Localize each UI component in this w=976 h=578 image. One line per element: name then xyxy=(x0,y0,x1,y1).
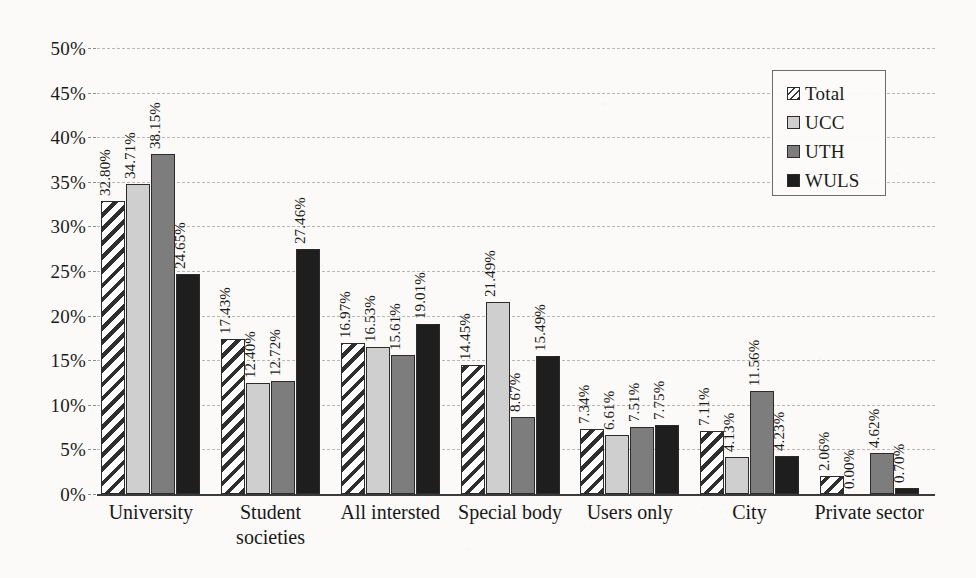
legend-label: Total xyxy=(805,83,845,105)
y-axis-tick-label: 25% xyxy=(16,262,86,281)
bar-group: 14.45%21.49%8.67%15.49% xyxy=(461,48,560,494)
bar-wuls[interactable] xyxy=(775,456,799,494)
bar-value-label: 7.51% xyxy=(627,383,642,422)
bar-group: 16.97%16.53%15.61%19.01% xyxy=(341,48,440,494)
bar-value-label: 38.15% xyxy=(148,102,163,149)
y-axis-labels: 0%5%10%15%20%25%30%35%40%45%50% xyxy=(8,48,86,494)
bar-value-label: 14.45% xyxy=(458,313,473,360)
bar-value-label: 16.97% xyxy=(338,291,353,338)
legend-swatch-icon xyxy=(787,87,800,100)
bar-uth[interactable] xyxy=(511,417,535,494)
category-label: City xyxy=(690,500,810,525)
bar-total[interactable] xyxy=(101,201,125,494)
bar-value-label: 27.46% xyxy=(293,197,308,244)
bar-value-label: 19.01% xyxy=(413,273,428,320)
legend-label: UTH xyxy=(805,141,845,163)
bar-wuls[interactable] xyxy=(536,356,560,494)
y-axis-tick-label: 10% xyxy=(16,395,86,414)
category-label: Special body xyxy=(450,500,570,525)
y-axis-tickmarks xyxy=(88,48,97,494)
bar-wuls[interactable] xyxy=(895,488,919,494)
y-axis-tickmark xyxy=(88,494,96,495)
bar-value-label: 4.13% xyxy=(722,413,737,452)
bar-ucc[interactable] xyxy=(605,435,629,494)
bar-value-label: 0.70% xyxy=(892,444,907,483)
bar-value-label: 12.40% xyxy=(243,332,258,379)
bar-value-label: 32.80% xyxy=(98,150,113,197)
legend-item-ucc[interactable]: UCC xyxy=(787,108,885,137)
bar-value-label: 17.43% xyxy=(218,287,233,334)
category-label: Private sector xyxy=(809,500,929,525)
y-axis-tickmark xyxy=(88,226,96,227)
legend-label: WULS xyxy=(805,170,860,192)
y-axis-tickmark xyxy=(88,360,96,361)
y-axis-tick-label: 20% xyxy=(16,306,86,325)
bar-ucc[interactable] xyxy=(126,184,150,494)
bar-group: 32.80%34.71%38.15%24.65% xyxy=(101,48,200,494)
legend-item-total[interactable]: Total xyxy=(787,79,885,108)
bar-value-label: 7.34% xyxy=(577,384,592,423)
category-label-line: All intersted xyxy=(330,500,450,525)
bar-value-label: 2.06% xyxy=(817,431,832,470)
category-label-line: Special body xyxy=(450,500,570,525)
y-axis-tick-label: 0% xyxy=(16,485,86,504)
bar-value-label: 34.71% xyxy=(123,133,138,180)
bar-value-label: 24.65% xyxy=(173,222,188,269)
bar-value-label: 4.62% xyxy=(867,409,882,448)
bar-ucc[interactable] xyxy=(366,347,390,494)
bar-ucc[interactable] xyxy=(725,457,749,494)
chart-page: 0%5%10%15%20%25%30%35%40%45%50% 32.80%34… xyxy=(0,0,976,578)
legend-swatch-icon xyxy=(787,145,800,158)
y-axis-tickmark xyxy=(88,48,96,49)
y-axis-tick-label: 45% xyxy=(16,83,86,102)
legend-swatch-icon xyxy=(787,174,800,187)
bar-ucc[interactable] xyxy=(486,302,510,494)
bar-value-label: 15.61% xyxy=(388,303,403,350)
category-label: Users only xyxy=(570,500,690,525)
category-label-line: Private sector xyxy=(809,500,929,525)
bar-value-label: 6.61% xyxy=(602,391,617,430)
bar-wuls[interactable] xyxy=(176,274,200,494)
bar-value-label: 11.56% xyxy=(747,340,762,386)
x-axis-baseline xyxy=(97,494,935,496)
y-axis-tick-label: 30% xyxy=(16,217,86,236)
y-axis-tick-label: 50% xyxy=(16,39,86,58)
category-label-line: societies xyxy=(211,525,331,550)
bar-group: 7.34%6.61%7.51%7.75% xyxy=(580,48,679,494)
bar-total[interactable] xyxy=(341,343,365,494)
chart-legend: TotalUCCUTHWULS xyxy=(772,70,886,196)
category-label: All intersted xyxy=(330,500,450,525)
bar-value-label: 15.49% xyxy=(533,304,548,351)
y-axis-tickmark xyxy=(88,271,96,272)
bar-value-label: 7.75% xyxy=(652,381,667,420)
y-axis-tickmark xyxy=(88,316,96,317)
bar-uth[interactable] xyxy=(630,427,654,494)
bar-value-label: 7.11% xyxy=(697,387,712,426)
y-axis-tickmark xyxy=(88,405,96,406)
legend-label: UCC xyxy=(805,112,845,134)
bar-ucc[interactable] xyxy=(246,383,270,494)
bar-value-label: 4.23% xyxy=(772,412,787,451)
category-label: University xyxy=(91,500,211,525)
bar-wuls[interactable] xyxy=(655,425,679,494)
bar-total[interactable] xyxy=(461,365,485,494)
y-axis-tick-label: 40% xyxy=(16,128,86,147)
bar-value-label: 0.00% xyxy=(842,450,857,489)
bar-uth[interactable] xyxy=(151,154,175,494)
y-axis-tickmark xyxy=(88,449,96,450)
category-label-line: Student xyxy=(211,500,331,525)
bar-uth[interactable] xyxy=(271,381,295,494)
x-axis-category-labels: UniversityStudentsocietiesAll interstedS… xyxy=(97,500,935,570)
bar-wuls[interactable] xyxy=(296,249,320,494)
bar-uth[interactable] xyxy=(391,355,415,494)
legend-item-wuls[interactable]: WULS xyxy=(787,166,885,195)
bar-total[interactable] xyxy=(580,429,604,494)
y-axis-tickmark xyxy=(88,182,96,183)
legend-item-uth[interactable]: UTH xyxy=(787,137,885,166)
bar-value-label: 8.67% xyxy=(508,372,523,411)
bar-wuls[interactable] xyxy=(416,324,440,494)
y-axis-tick-label: 35% xyxy=(16,172,86,191)
category-label-line: City xyxy=(690,500,810,525)
bar-value-label: 12.72% xyxy=(268,329,283,376)
legend-swatch-icon xyxy=(787,116,800,129)
